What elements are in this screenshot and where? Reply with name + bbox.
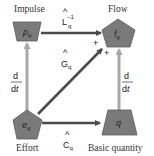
effort-label: Effort bbox=[16, 143, 39, 153]
plus-sign-diagonal: + bbox=[104, 48, 109, 58]
diagram-canvas: pq fq eq q Impulse Flow Effort Basic qua… bbox=[0, 0, 154, 156]
basic-quantity-symbol: q bbox=[116, 118, 121, 128]
operator-C-hat: ^ bbox=[65, 130, 70, 140]
flow-label: Flow bbox=[108, 4, 128, 14]
impulse-label: Impulse bbox=[14, 4, 45, 14]
derivative-right-numerator: d bbox=[124, 71, 129, 81]
basic-quantity-label: Basic quantity bbox=[88, 143, 143, 153]
flow-node bbox=[102, 19, 135, 47]
arrow-effort-to-flow bbox=[38, 49, 102, 114]
derivative-left-numerator: d bbox=[13, 71, 18, 81]
derivative-left-denominator: dt bbox=[11, 84, 19, 94]
operator-G-hat: ^ bbox=[63, 48, 68, 58]
operator-L-subscript: q bbox=[68, 23, 71, 29]
operator-C: Cq bbox=[63, 140, 73, 151]
operator-G: Gq bbox=[61, 59, 71, 70]
plus-sign-horizontal: + bbox=[93, 38, 98, 48]
derivative-right-denominator: dt bbox=[122, 84, 130, 94]
